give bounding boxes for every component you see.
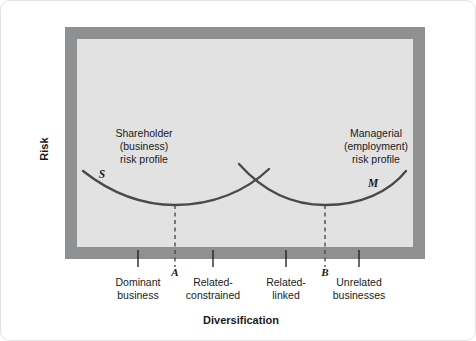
x-tick-label-2-line1: Related- [193,276,233,288]
x-tick-label-3-line2: linked [272,289,300,301]
marker-label-a: A [170,266,178,278]
x-tick-label-4-line2: businesses [333,289,386,301]
shareholder-annotation-line1: Shareholder [115,127,173,139]
x-tick-label-2-line2: constrained [186,289,240,301]
x-tick-label-1-line2: business [117,289,158,301]
figure-card: Risk Shareholder (business) risk profile… [0,0,476,341]
risk-diversification-chart: Risk Shareholder (business) risk profile… [1,1,476,341]
x-tick-label-4-line1: Unrelated [336,276,382,288]
marker-label-b: B [320,266,328,278]
x-tick-label-3-line1: Related- [266,276,306,288]
y-axis-title: Risk [38,137,50,161]
managerial-annotation-line3: risk profile [352,153,400,165]
x-axis-title: Diversification [203,314,279,326]
shareholder-curve-label: S [99,168,105,180]
managerial-annotation-line2: (employment) [344,140,408,152]
x-tick-label-1-line1: Dominant [116,276,161,288]
shareholder-annotation-line3: risk profile [120,153,168,165]
managerial-annotation-line1: Managerial [350,127,402,139]
shareholder-annotation-line2: (business) [120,140,168,152]
managerial-curve-label: M [367,177,379,189]
